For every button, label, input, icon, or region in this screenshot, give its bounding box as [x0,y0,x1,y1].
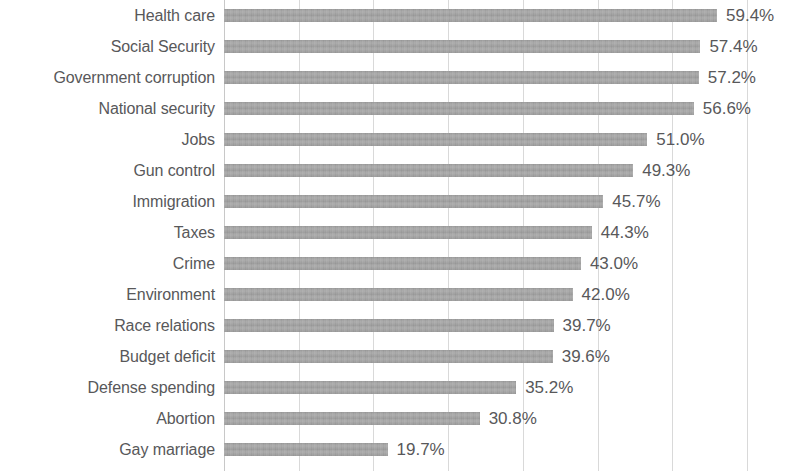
value-label: 39.7% [554,310,611,341]
bar-chart: Health care59.4%Social Security57.4%Gove… [0,0,797,471]
bar [224,257,581,270]
bar [224,40,700,53]
bar [224,443,388,456]
bar [224,195,603,208]
category-label: Defense spending [0,372,215,403]
value-label: 56.6% [694,93,751,124]
value-label: 45.7% [603,186,660,217]
bar-row: Gay marriage19.7% [0,434,797,465]
bar-row: Immigration45.7% [0,186,797,217]
bar-row: Gun control49.3% [0,155,797,186]
bar-row: Defense spending35.2% [0,372,797,403]
category-label: Jobs [0,124,215,155]
bar [224,164,633,177]
value-label: 57.2% [699,62,756,93]
bar-container [224,62,699,93]
bar-container [224,434,388,465]
bar-row: Social Security57.4% [0,31,797,62]
value-label: 35.2% [516,372,573,403]
bar-container [224,403,480,434]
value-label: 44.3% [592,217,649,248]
category-label: Crime [0,248,215,279]
bar [224,133,647,146]
category-label: Gun control [0,155,215,186]
bar [224,319,554,332]
bar-row: Taxes44.3% [0,217,797,248]
bar-row: Race relations39.7% [0,310,797,341]
category-label: Taxes [0,217,215,248]
bar [224,350,553,363]
bar-container [224,93,694,124]
bar [224,71,699,84]
bar-container [224,372,516,403]
value-label: 19.7% [388,434,445,465]
bar-row: Government corruption57.2% [0,62,797,93]
category-label: Health care [0,0,215,31]
bar-row: Abortion30.8% [0,403,797,434]
bar [224,226,592,239]
category-label: Abortion [0,403,215,434]
bar-row: Crime43.0% [0,248,797,279]
value-label: 49.3% [633,155,690,186]
bar-container [224,0,717,31]
category-label: Gay marriage [0,434,215,465]
bar-row: Environment42.0% [0,279,797,310]
value-label: 51.0% [647,124,704,155]
value-label: 39.6% [553,341,610,372]
category-label: National security [0,93,215,124]
bar-row: Budget deficit39.6% [0,341,797,372]
bar-container [224,155,633,186]
value-label: 43.0% [581,248,638,279]
bar [224,9,717,22]
bar-row: Jobs51.0% [0,124,797,155]
value-label: 42.0% [573,279,630,310]
category-label: Budget deficit [0,341,215,372]
bar-container [224,279,573,310]
category-label: Race relations [0,310,215,341]
bar-container [224,186,603,217]
bar [224,412,480,425]
bar [224,288,573,301]
bar [224,381,516,394]
value-label: 57.4% [700,31,757,62]
bar-container [224,310,554,341]
bar-container [224,341,553,372]
bar-container [224,248,581,279]
category-label: Environment [0,279,215,310]
value-label: 30.8% [480,403,537,434]
bar-container [224,217,592,248]
category-label: Government corruption [0,62,215,93]
bar-container [224,31,700,62]
bar [224,102,694,115]
category-label: Immigration [0,186,215,217]
bar-row: National security56.6% [0,93,797,124]
value-label: 59.4% [717,0,774,31]
bar-container [224,124,647,155]
category-label: Social Security [0,31,215,62]
bar-row: Health care59.4% [0,0,797,31]
